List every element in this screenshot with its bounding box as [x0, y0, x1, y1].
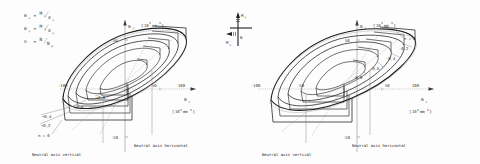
- technical-figure: m x = M x σ y m y = M y σ y n = N N p: [0, 0, 480, 164]
- svg-text:n = 0: n = 0: [404, 36, 416, 41]
- left-x-unit-open: [: [172, 109, 174, 114]
- svg-text:-0,6: -0,6: [370, 66, 380, 71]
- right-y-unit-open: [: [373, 23, 375, 28]
- right-caption-neutral-axis-horizontal: Neutral axis horizontal: [352, 143, 406, 148]
- left-x-unit-close: ]: [193, 109, 195, 114]
- legend-2-denominator-sub: y: [52, 31, 54, 35]
- legend-1-equals: =: [34, 13, 37, 18]
- legend-2-numerator: M: [40, 24, 43, 29]
- right-ytick--50: -50: [343, 135, 351, 140]
- right-ylabel-text: m: [360, 24, 363, 29]
- left-ylabel-text: m: [128, 24, 131, 29]
- left-caption-neutral-axis-horizontal: Neutral axis horizontal: [134, 143, 188, 148]
- right-xlabel-text: m: [421, 97, 424, 102]
- svg-text:+0,2: +0,2: [41, 123, 51, 128]
- left-y-unit-open: [: [141, 23, 143, 28]
- svg-text:+0,4: +0,4: [42, 114, 52, 119]
- legend-2-equals: =: [34, 26, 37, 31]
- left-xlabel-text: m: [184, 97, 187, 102]
- legend-3-numerator: N: [40, 37, 43, 42]
- svg-text:+0,6: +0,6: [74, 105, 84, 110]
- svg-text:+0,8: +0,8: [96, 95, 106, 100]
- right-x-unit-open: [: [409, 109, 411, 114]
- svg-text:-0,8: -0,8: [353, 75, 363, 80]
- svg-text:-0,2: -0,2: [399, 46, 409, 51]
- right-y-unit-close: ]: [394, 23, 396, 28]
- legend-2-denominator: σ: [48, 28, 51, 33]
- legend-1-denominator: σ: [48, 15, 51, 20]
- legend-1-symbol: m: [24, 13, 27, 18]
- legend-2-symbol: m: [24, 26, 27, 31]
- right-ytick-50: 50: [345, 38, 350, 43]
- svg-text:n = 0: n = 0: [38, 133, 50, 138]
- legend-3-denominator: N: [47, 41, 50, 46]
- left-ytick--50: -50: [111, 135, 119, 140]
- legend-1-symbol-sub: x: [29, 16, 31, 20]
- right-x-unit-mm: mm: [420, 109, 425, 114]
- legend-3-symbol: n: [24, 39, 27, 44]
- right-x-unit-close: ]: [430, 109, 432, 114]
- right-xtick-50: 50: [385, 83, 390, 88]
- left-x-unit-mm: mm: [183, 109, 188, 114]
- left-caption-neutral-axis-vertical: Neutral axis vertical: [32, 152, 81, 157]
- legend-1-denominator-sub: y: [52, 18, 54, 22]
- right-y-unit-mm: mm: [384, 23, 389, 28]
- right-xtick--100: -100: [251, 83, 261, 88]
- legend-3-denominator-sub: p: [51, 44, 53, 48]
- left-xtick-100: 100: [178, 83, 186, 88]
- left-label-0-8: +0,8: [95, 94, 106, 100]
- right-xlabel-sub: x: [425, 100, 427, 104]
- right-xtick-100: 100: [412, 83, 420, 88]
- figure-root: m x = M x σ y m y = M y σ y n = N N p: [0, 0, 480, 164]
- svg-text:-0,4: -0,4: [386, 56, 396, 61]
- legend-1-numerator: M: [40, 11, 43, 16]
- legend-3-equals: =: [34, 39, 37, 44]
- left-y-unit-mm: mm: [152, 23, 157, 28]
- legend-2-symbol-sub: y: [29, 29, 31, 33]
- left-xlabel-sub: x: [188, 100, 190, 104]
- left-ylabel-sub: y: [132, 26, 134, 30]
- right-caption-neutral-axis-vertical: Neutral axis vertical: [262, 152, 311, 157]
